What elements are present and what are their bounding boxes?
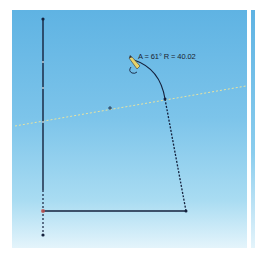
vertical-line-bottom-endpoint[interactable]: [41, 233, 44, 236]
sketch-geometry[interactable]: [0, 0, 255, 259]
inference-line: [15, 86, 246, 126]
vertical-line-top-endpoint[interactable]: [41, 17, 44, 20]
vertical-line-midpoint-marker: [42, 121, 44, 123]
coincident-point[interactable]: [41, 209, 45, 213]
vertical-line-midpoint-marker: [42, 87, 44, 89]
dimension-readout: A = 61° R = 40.02: [138, 52, 196, 61]
vertical-line-midpoint-marker: [42, 61, 44, 63]
slanted-line[interactable]: [165, 99, 186, 211]
